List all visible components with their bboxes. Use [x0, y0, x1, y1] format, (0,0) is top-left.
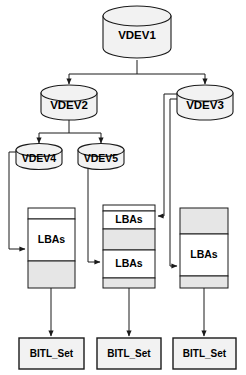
vdev4-label: VDEV4: [22, 152, 57, 164]
lba-left-band-0: [28, 208, 75, 219]
node-vdev1[interactable]: VDEV1: [103, 6, 171, 58]
lba-column-left[interactable]: LBAs: [28, 208, 75, 288]
node-vdev2[interactable]: VDEV2: [41, 85, 97, 120]
lba-middle-band-1: [103, 229, 155, 250]
vdev3-label: VDEV3: [186, 99, 224, 111]
vdev1-cylinder-top: [103, 6, 171, 26]
vdev-hierarchy-diagram: VDEV1 VDEV2 VDEV3 VDEV4 VDEV5: [0, 0, 246, 375]
bitl-right-label: BITL_Set: [183, 348, 227, 359]
bitl-middle-label: BITL_Set: [107, 348, 151, 359]
bitl-set-left[interactable]: BITL_Set: [19, 338, 84, 369]
lba-left-band-2: [28, 261, 75, 288]
bitl-set-middle[interactable]: BITL_Set: [97, 338, 161, 369]
vdev1-label: VDEV1: [118, 29, 156, 41]
lba-right-band-2: [180, 276, 228, 288]
connector-layer: [9, 60, 205, 336]
lba-middle-band-top-edge: [103, 205, 155, 211]
bitl-left-label: BITL_Set: [30, 348, 74, 359]
lba-middle-band-0-label: LBAs: [115, 213, 143, 225]
vdev5-label: VDEV5: [84, 152, 119, 164]
lba-middle-band-3: [103, 278, 155, 288]
node-vdev5[interactable]: VDEV5: [78, 144, 124, 170]
lba-column-middle[interactable]: LBAs LBAs: [103, 205, 155, 288]
bitl-set-right[interactable]: BITL_Set: [173, 338, 236, 369]
lba-middle-band-2-label: LBAs: [115, 257, 143, 269]
lba-right-band-1-label: LBAs: [190, 248, 218, 260]
node-vdev4[interactable]: VDEV4: [16, 144, 62, 170]
lba-column-right[interactable]: LBAs: [180, 208, 228, 288]
vdev2-label: VDEV2: [50, 99, 88, 111]
lba-left-band-1-label: LBAs: [38, 233, 66, 245]
lba-right-band-0: [180, 208, 228, 234]
node-vdev3[interactable]: VDEV3: [177, 85, 233, 120]
diagram-canvas: VDEV1 VDEV2 VDEV3 VDEV4 VDEV5: [0, 0, 246, 375]
